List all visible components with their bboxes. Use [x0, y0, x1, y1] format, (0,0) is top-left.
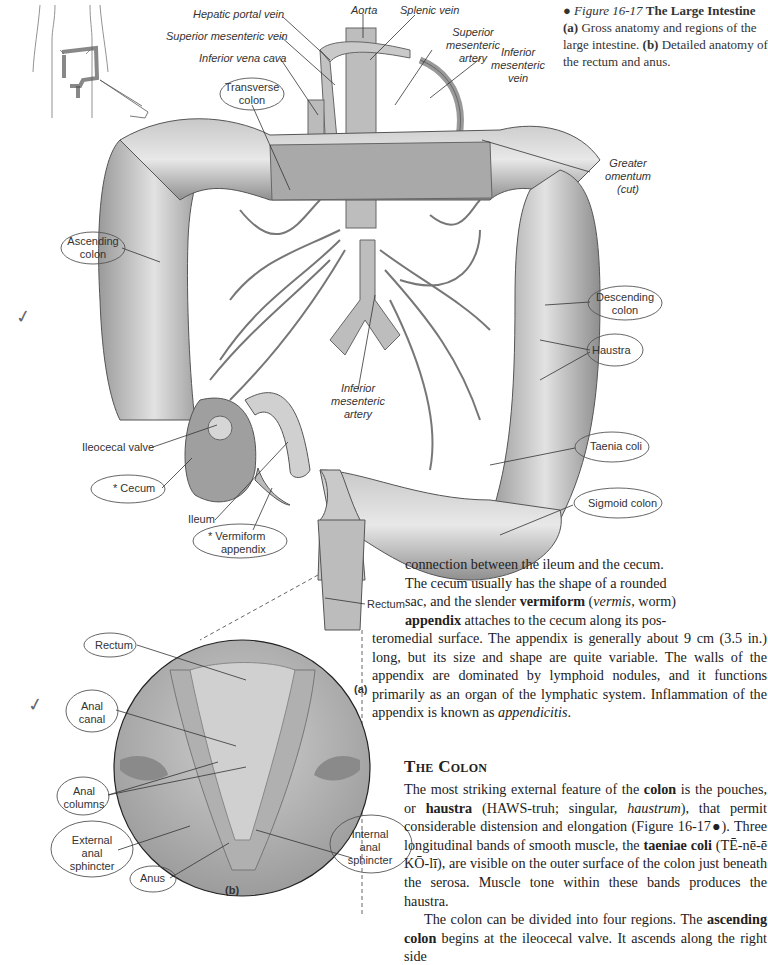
text-run: begins at the ileocecal valve. It ascend…	[404, 930, 767, 965]
label-ileum: Ileum	[188, 513, 215, 526]
label-line: External	[64, 834, 120, 847]
label-line: anal	[64, 847, 120, 860]
label-inferior-mesenteric-artery: Inferior mesenteric artery	[328, 382, 388, 422]
label-superior-mesenteric-vein: Superior mesenteric vein	[166, 30, 288, 43]
label-line: (cut)	[598, 183, 658, 196]
label-anal-columns: Anal columns	[60, 785, 108, 811]
label-taenia-coli: Taenia coli	[590, 440, 642, 453]
body-paragraph-1-cont: teromedial surface. The appendix is gene…	[372, 629, 767, 722]
term-taeniae-coli: taeniae coli	[643, 837, 711, 853]
label-line: * Vermiform	[208, 530, 288, 543]
term-vermis: vermis	[593, 593, 631, 609]
label-text: Cecum	[120, 482, 155, 494]
colon	[99, 119, 600, 630]
figure-title: The Large Intestine	[646, 3, 756, 18]
text-run: (HAWS-truh; singular,	[472, 800, 627, 816]
label-hepatic-portal-vein: Hepatic portal vein	[193, 8, 284, 21]
label-transverse-colon: Transverse colon	[222, 81, 282, 107]
label-line: sphincter	[64, 860, 120, 873]
label-line: artery	[328, 408, 388, 421]
label-line: Anal	[60, 785, 108, 798]
label-line: columns	[60, 798, 108, 811]
label-line: Inferior	[488, 46, 548, 59]
label-inferior-mesenteric-vein: Inferior mesenteric vein	[488, 46, 548, 86]
text-run: The most striking external feature of th…	[404, 781, 644, 797]
label-vermiform-appendix: * Vermiform appendix	[208, 530, 288, 556]
text-run: The cecum usually has the shape of a rou…	[405, 575, 667, 591]
label-line: mesenteric	[328, 395, 388, 408]
text-run: attaches to the cecum along its pos-	[461, 612, 666, 628]
term-vermiform: vermiform	[520, 593, 585, 609]
term-colon: colon	[644, 781, 676, 797]
section-heading: The Colon	[404, 757, 487, 777]
label-line: omentum	[598, 170, 658, 183]
term-haustra: haustra	[426, 800, 473, 816]
label-line: sphincter	[342, 854, 398, 867]
label-ascending-colon: Ascending colon	[63, 235, 123, 261]
label-line: vein	[488, 72, 548, 85]
label-line: Inferior	[328, 382, 388, 395]
text-run: connection between the ileum and the cec…	[405, 556, 664, 572]
label-line: Superior	[443, 26, 503, 39]
figure-number: Figure 16-17	[574, 3, 642, 18]
label-sigmoid-colon: Sigmoid colon	[588, 497, 657, 510]
label-rectum-b: Rectum	[95, 639, 133, 652]
label-line: Internal	[342, 828, 398, 841]
panel-b-label: (b)	[225, 884, 239, 896]
label-rectum-a: Rectum	[367, 598, 405, 611]
label-line: colon	[63, 248, 123, 261]
text-run: sac, and the slender	[405, 593, 520, 609]
figure-bullet: ●	[563, 3, 571, 18]
label-line: mesenteric	[488, 59, 548, 72]
label-inferior-vena-cava: Inferior vena cava	[199, 52, 286, 65]
label-line: Anal	[72, 700, 112, 713]
label-aorta: Aorta	[351, 4, 377, 17]
term-haustrum: haustrum	[627, 800, 681, 816]
label-text: Vermiform	[215, 530, 265, 542]
label-external-anal-sphincter: External anal sphincter	[64, 834, 120, 874]
label-splenic-vein: Splenic vein	[400, 4, 459, 17]
figure-caption: ● Figure 16-17 The Large Intestine (a) G…	[563, 2, 768, 70]
label-anal-canal: Anal canal	[72, 700, 112, 726]
panel-a-label: (a)	[354, 683, 367, 695]
text-run: The colon can be divided into four regio…	[424, 911, 707, 927]
body-locator-thumbnail	[33, 5, 148, 118]
label-internal-anal-sphincter: Internal anal sphincter	[342, 828, 398, 868]
label-line: canal	[72, 713, 112, 726]
text-run: , worm)	[631, 593, 676, 609]
label-line: colon	[222, 94, 282, 107]
body-paragraph-1: connection between the ileum and the cec…	[405, 555, 767, 629]
asterisk-mark: *	[208, 530, 212, 542]
caption-b-marker: (b)	[643, 37, 659, 52]
label-ileocecal-valve: Ileocecal valve	[82, 441, 154, 454]
label-greater-omentum: Greater omentum (cut)	[598, 157, 658, 197]
label-haustra: Haustra	[592, 344, 631, 357]
caption-a-marker: (a)	[563, 20, 578, 35]
label-line: Greater	[598, 157, 658, 170]
label-line: Ascending	[63, 235, 123, 248]
term-appendicitis: appendicitis	[498, 704, 567, 720]
text-run: .	[567, 704, 571, 720]
label-line: Descending	[592, 291, 658, 304]
term-appendix: appendix	[405, 612, 461, 628]
asterisk-mark: *	[113, 482, 117, 494]
label-line: colon	[592, 304, 658, 317]
label-line: appendix	[208, 543, 288, 556]
label-cecum: * Cecum	[113, 482, 155, 495]
body-paragraph-2: The most striking external feature of th…	[404, 780, 767, 965]
label-line: Transverse	[222, 81, 282, 94]
label-line: anal	[342, 841, 398, 854]
label-anus: Anus	[140, 872, 165, 885]
label-descending-colon: Descending colon	[592, 291, 658, 317]
